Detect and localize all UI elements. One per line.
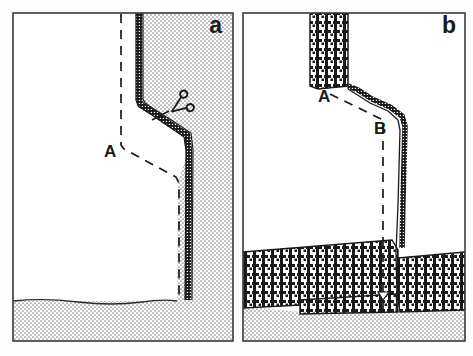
houndstooth-band-top-b [310,13,348,89]
label-point-a-panel-a: A [104,142,116,161]
figure-canvas: A a A B b [0,0,473,356]
figure-root: A a A B b [0,0,473,356]
houndstooth-block-right-b [398,252,465,312]
panel-b: A B b [243,12,465,341]
panel-divider [234,8,242,346]
label-point-b-panel-b: B [374,119,386,138]
label-point-a-panel-b: A [318,87,330,106]
panel-a-label: a [209,12,222,38]
panel-b-label: b [442,12,456,38]
panel-a: A a [13,12,233,341]
